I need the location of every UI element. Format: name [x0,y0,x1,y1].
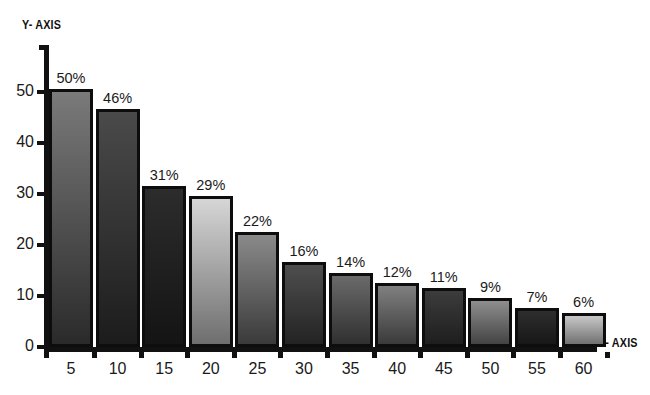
x-axis-tick-label: 45 [418,360,470,378]
x-axis-tick [372,352,377,358]
x-axis-tick-label: 60 [558,360,610,378]
x-axis-tick-label: 35 [325,360,377,378]
bar [329,273,373,347]
bar-value-label: 22% [227,214,287,229]
x-axis-tick-label: 40 [371,360,423,378]
x-axis-tick [185,352,190,358]
x-axis-tick [232,352,237,358]
x-axis-tick [139,352,144,358]
bar [375,283,419,347]
bar-value-label: 29% [181,178,241,193]
bar [468,298,512,347]
bar [189,196,233,347]
x-axis-tick-label: 5 [45,360,97,378]
bar [49,89,93,347]
x-axis-tick-label: 50 [464,360,516,378]
bar-chart: Y- AXIS X- AXIS 01020304050 510152025303… [0,0,650,395]
bar [515,308,559,347]
bar-value-label: 46% [88,91,148,106]
bar [562,313,606,347]
x-axis-tick [418,352,423,358]
bar-value-label: 6% [554,295,614,310]
bar [235,232,279,347]
x-axis-tick [278,352,283,358]
x-axis-tick-label: 10 [92,360,144,378]
bar [282,262,326,347]
x-axis-tick [558,352,563,358]
x-axis-tick [44,352,49,358]
bar [142,186,186,347]
scan-artifact [0,390,650,395]
x-axis-tick [92,352,97,358]
x-axis-tick-label: 25 [231,360,283,378]
bar-value-label: 50% [41,71,101,86]
x-axis-tick [605,352,610,358]
bar [96,109,140,347]
bar [422,288,466,347]
x-axis-tick [325,352,330,358]
x-axis-tick-label: 55 [511,360,563,378]
x-axis-tick [511,352,516,358]
x-axis-tick [465,352,470,358]
x-axis-tick-label: 30 [278,360,330,378]
x-axis-tick-label: 20 [185,360,237,378]
x-axis-tick-label: 15 [138,360,190,378]
